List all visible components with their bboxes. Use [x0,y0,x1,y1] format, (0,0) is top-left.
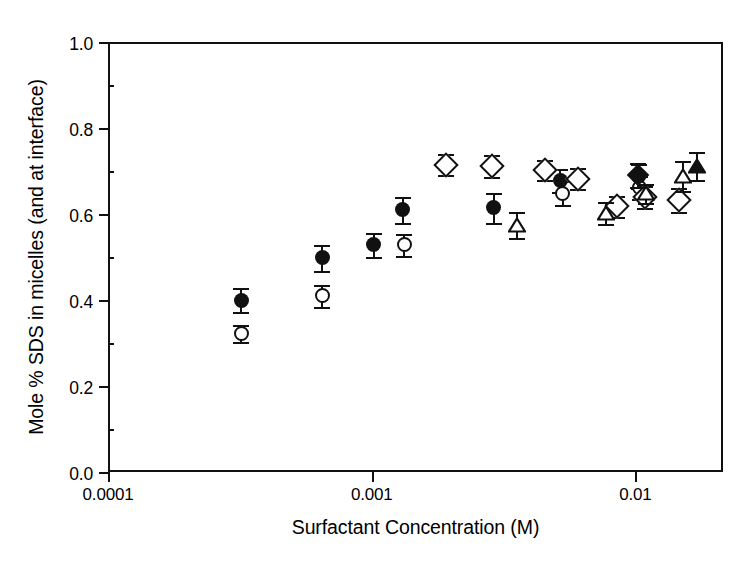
x-axis-title: Surfactant Concentration (M) [108,516,723,539]
error-bar-cap [486,223,502,225]
error-bar-cap [314,271,330,273]
y-tick-mark: 0.6 [99,214,108,216]
y-tick-mark: 0.2 [99,386,108,388]
error-bar-cap [555,205,571,207]
error-bar-cap [314,307,330,309]
marker-triangle-open [597,205,615,221]
y-tick-mark: 0.8 [99,128,108,130]
error-bar-cap [396,256,412,258]
y-tick-minor [108,171,114,173]
error-bar-cap [314,285,330,287]
y-tick-mark: 0.0 [99,472,108,474]
error-bar-cap [396,234,412,236]
marker-circle-filled [395,202,410,217]
marker-circle-open [555,186,570,201]
error-bar-cap [689,152,705,154]
marker-circle-filled [315,250,330,265]
error-bar-cap [598,224,614,226]
x-tick-label: 0.001 [351,485,393,505]
marker-circle-filled [234,293,249,308]
error-bar-cap [630,187,646,189]
error-bar-cap [366,233,382,235]
y-tick-label: 0.8 [69,120,93,141]
y-tick-label: 1.0 [69,34,93,55]
marker-triangle-filled [688,158,706,174]
x-tick-label: 0.0001 [83,485,134,505]
y-tick-minor [108,343,114,345]
error-bar-cap [395,197,411,199]
y-tick-mark: 1.0 [99,42,108,44]
error-bar-cap [233,288,249,290]
error-bar-cap [366,257,382,259]
marker-circle-open [315,288,330,303]
error-bar-cap [675,191,691,193]
x-tick-mark [108,472,110,482]
error-bar-cap [671,212,687,214]
marker-circle-filled [486,200,501,215]
y-tick-minor [108,85,114,87]
y-tick-label: 0.2 [69,378,93,399]
x-tick-mark [635,472,637,482]
marker-circle-open [397,237,412,252]
error-bar-cap [395,223,411,225]
y-tick-label: 0.4 [69,292,93,313]
y-tick-mark: 0.4 [99,300,108,302]
y-tick-label: 0.0 [69,464,93,485]
error-bar-cap [509,238,525,240]
error-bar-cap [233,312,249,314]
y-axis-title: Mole % SDS in micelles (and at interface… [14,22,58,492]
error-bar-cap [638,203,654,205]
marker-circle-filled [366,237,381,252]
y-tick-minor [108,429,114,431]
error-bar-cap [598,202,614,204]
marker-triangle-open [508,217,526,233]
error-bar-cap [486,193,502,195]
x-tick-label: 0.01 [619,485,651,505]
error-bar-cap [233,342,249,344]
error-bar-cap [509,212,525,214]
y-tick-minor [108,257,114,259]
y-tick-label: 0.6 [69,206,93,227]
x-tick-mark [372,472,374,482]
figure-root: Mole % SDS in micelles (and at interface… [0,0,756,570]
error-bar-cap [314,245,330,247]
plot-area: 0.00.20.40.60.81.0 0.00010.0010.01 [108,42,723,472]
marker-circle-open [234,326,249,341]
error-bar-cap [689,180,705,182]
